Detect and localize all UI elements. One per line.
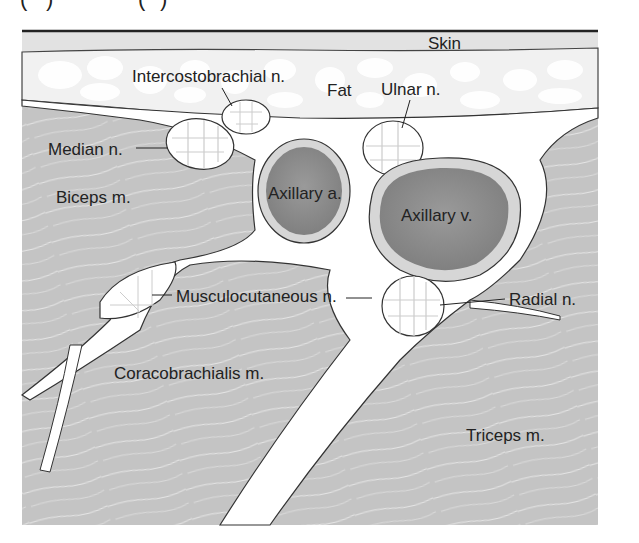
panel-label-paren: (: [138, 0, 146, 11]
label-musculocutaneous-nerve: Musculocutaneous n.: [176, 287, 337, 306]
label-radial-nerve: Radial n.: [509, 290, 576, 309]
label-median-nerve: Median n.: [48, 140, 123, 159]
label-ulnar-nerve: Ulnar n.: [381, 80, 441, 99]
label-coracobrachialis-muscle: Coracobrachialis m.: [114, 364, 264, 383]
panel-label-paren: ): [46, 0, 53, 11]
label-biceps-muscle: Biceps m.: [56, 188, 131, 207]
axillary-anatomy-diagram: ( ) ( ) Skin: [0, 0, 639, 543]
label-fat: Fat: [327, 81, 352, 100]
label-axillary-artery: Axillary a.: [268, 184, 342, 203]
label-skin: Skin: [428, 34, 461, 53]
panel-label-paren: (: [20, 0, 28, 11]
intercostobrachial-nerve: [222, 100, 270, 134]
label-axillary-vein: Axillary v.: [401, 206, 472, 225]
label-intercostobrachial-nerve: Intercostobrachial n.: [132, 67, 285, 86]
label-triceps-muscle: Triceps m.: [466, 426, 545, 445]
panel-label-paren: ): [160, 0, 167, 11]
radial-nerve: [382, 276, 444, 336]
skin-layer: [22, 30, 598, 52]
panel-labels: ( ) ( ): [20, 0, 167, 11]
